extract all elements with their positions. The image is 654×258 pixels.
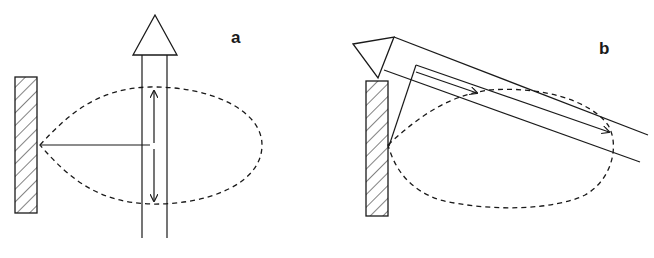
reflector-plate xyxy=(15,77,37,213)
radiation-lobe-dashed xyxy=(388,89,613,207)
diagram-canvas xyxy=(0,0,654,258)
panel-b xyxy=(353,37,648,216)
beam-arrowhead-icon xyxy=(133,15,177,55)
inner-arrow-long xyxy=(416,65,609,132)
figure: a b xyxy=(0,0,654,258)
panel-label-a: a xyxy=(231,29,240,46)
beam-wall-lower xyxy=(384,70,640,162)
panel-a xyxy=(15,15,262,238)
reflector-plate xyxy=(366,81,388,216)
beam-wall-upper xyxy=(394,37,648,135)
panel-label-b: b xyxy=(599,40,609,57)
